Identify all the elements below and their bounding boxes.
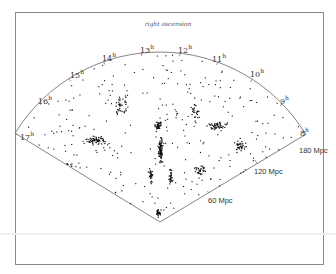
ra-label: 13h	[140, 43, 154, 55]
ra-label: 12h	[178, 43, 192, 55]
ra-label: 11h	[212, 52, 226, 64]
distance-ticks	[207, 129, 305, 193]
ra-label: 16h	[38, 94, 52, 106]
wedge-plot: 17h16h15h14h13h12h11h10h9h8h 60 Mpc120 M…	[0, 0, 336, 274]
distance-label: 180 Mpc	[299, 146, 328, 155]
distance-label: 120 Mpc	[254, 167, 283, 176]
ra-label: 10h	[250, 67, 264, 79]
distance-tick	[207, 191, 208, 193]
distance-labels: 60 Mpc120 Mpc180 Mpc	[208, 146, 328, 205]
distance-label: 60 Mpc	[208, 196, 233, 205]
ra-label: 9h	[280, 94, 289, 106]
distance-tick	[255, 160, 257, 164]
ra-tick	[15, 133, 18, 135]
ra-labels: 17h16h15h14h13h12h11h10h9h8h	[20, 43, 309, 142]
ra-label: 14h	[102, 51, 116, 63]
ra-tick	[251, 79, 253, 82]
ra-label: 17h	[20, 130, 34, 142]
ra-label: 15h	[70, 68, 84, 80]
